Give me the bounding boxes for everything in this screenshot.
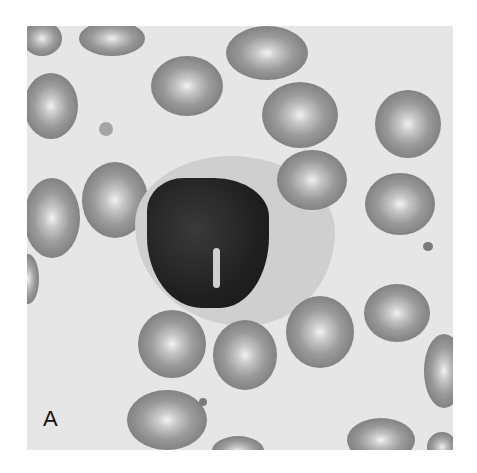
red-blood-cell [226,26,308,80]
red-blood-cell [262,82,338,148]
nucleus-cleft [213,248,220,288]
red-blood-cell [277,150,347,210]
red-blood-cell [151,56,223,116]
red-blood-cell [364,284,430,342]
red-blood-cell [27,73,78,139]
micrograph [27,26,453,450]
red-blood-cell [27,178,80,258]
leukocyte-nucleus [147,178,269,308]
panel-label: A [43,406,58,432]
red-blood-cell [424,334,453,408]
red-blood-cell [127,390,207,450]
red-blood-cell [365,173,435,235]
red-blood-cell [27,26,62,56]
red-blood-cell [347,418,415,450]
red-blood-cell [212,436,264,450]
red-blood-cell [138,310,206,378]
red-blood-cell [427,432,453,450]
red-blood-cell [79,26,145,56]
red-blood-cell [375,90,441,158]
red-blood-cell [213,320,277,390]
platelet [199,398,207,406]
red-blood-cell [27,254,39,304]
platelet [99,122,113,136]
platelet [423,242,433,251]
red-blood-cell [286,296,354,368]
